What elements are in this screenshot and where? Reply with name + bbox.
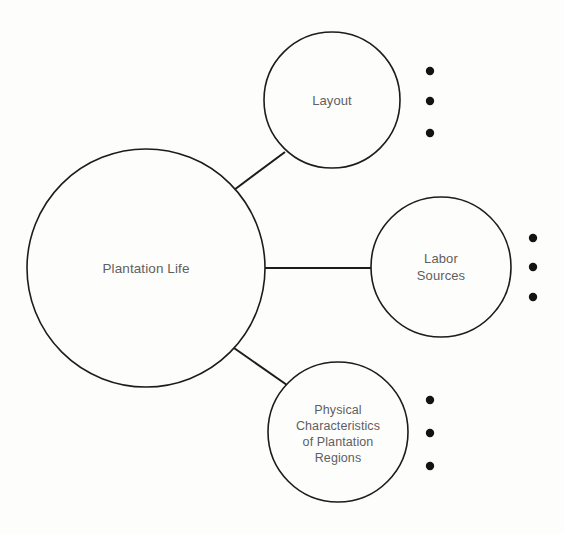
branch-node-circle-layout[interactable] [264, 32, 400, 168]
bullet-dot-labor-sources-2[interactable] [529, 263, 537, 271]
central-node-circle[interactable] [27, 149, 265, 387]
bullet-dot-physical-characteristics-2[interactable] [426, 429, 434, 437]
diagram-canvas: Plantation Life Layout Labor Sources Phy… [0, 0, 564, 534]
bullet-dot-labor-sources-3[interactable] [529, 293, 537, 301]
concept-map-svg [0, 0, 564, 534]
connector-line-physical-characteristics [234, 348, 287, 385]
bullet-dot-physical-characteristics-1[interactable] [426, 396, 434, 404]
bullet-dot-layout-3[interactable] [426, 129, 434, 137]
bullet-dot-layout-1[interactable] [426, 67, 434, 75]
branch-node-circle-physical-characteristics[interactable] [268, 362, 408, 502]
bullet-dot-layout-2[interactable] [426, 97, 434, 105]
branch-node-circle-labor-sources[interactable] [371, 197, 511, 337]
bullet-dot-physical-characteristics-3[interactable] [426, 462, 434, 470]
bullet-dot-labor-sources-1[interactable] [529, 234, 537, 242]
connector-line-layout [234, 152, 285, 190]
